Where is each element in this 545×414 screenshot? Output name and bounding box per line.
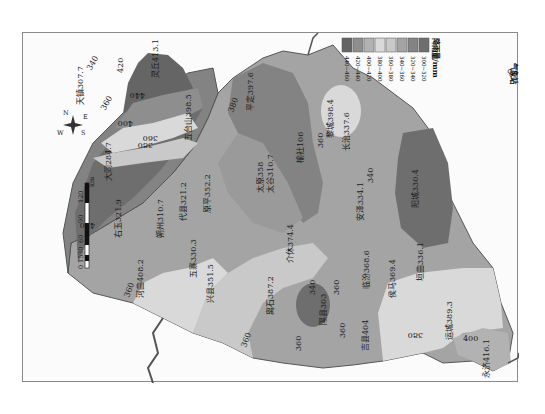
svg-text:降雨量/mm: 降雨量/mm	[431, 38, 441, 78]
svg-text:380~400: 380~400	[377, 56, 383, 82]
station-jiexiu: 介休374.4	[285, 224, 295, 263]
svg-text:30: 30	[77, 247, 85, 255]
station-daixian: 代县321.2	[178, 182, 188, 221]
svg-text:420: 420	[116, 58, 125, 73]
svg-text:320~340: 320~340	[410, 56, 416, 82]
station-hequ: 河曲408.2	[135, 259, 145, 298]
svg-text:360~380: 360~380	[388, 56, 394, 82]
legend: 降雨量/mm 300~320 320~340 340~360 360~380 3…	[342, 38, 441, 82]
svg-text:0: 0	[77, 265, 85, 269]
svg-text:km: km	[88, 177, 96, 187]
station-taiyuan: 太原358	[255, 162, 265, 193]
svg-text:S: S	[81, 129, 85, 137]
svg-text:340: 340	[85, 54, 100, 72]
station-yushe: 榆社106	[295, 132, 305, 163]
svg-text:N: N	[63, 109, 69, 117]
station-jixian: 吉县404	[361, 320, 370, 351]
station-taigu: 太谷310.7	[265, 154, 275, 193]
svg-text:340: 340	[366, 168, 375, 183]
precipitation-map: 降雨量/mm 300~320 320~340 340~360 360~380 3…	[23, 33, 519, 383]
station-wuzhai: 五寨330.3	[188, 239, 198, 278]
svg-text:360: 360	[338, 323, 347, 338]
station-xixian: 隰县303	[318, 294, 328, 325]
svg-text:360: 360	[99, 94, 114, 112]
svg-text:120: 120	[77, 191, 85, 203]
svg-text:E: E	[83, 113, 88, 121]
svg-text:400: 400	[463, 334, 478, 343]
svg-text:420~440: 420~440	[355, 56, 361, 82]
station-linfen: 临汾368.6	[361, 250, 371, 289]
station-houma: 侯马369.4	[388, 259, 397, 298]
station-yuanqu: 垣曲336.1	[415, 242, 425, 281]
station-yangcheng: 阳城330.4	[411, 169, 420, 208]
map-frame: 降雨量/mm 300~320 320~340 340~360 360~380 3…	[22, 32, 518, 382]
station-licheng: 黎城398.4	[325, 99, 335, 138]
station-lishi: 离石387.2	[265, 276, 275, 315]
svg-text:400: 400	[118, 119, 133, 128]
station-anze: 安泽334.1	[355, 182, 365, 221]
svg-text:380: 380	[408, 331, 423, 340]
svg-text:340~360: 340~360	[399, 56, 405, 82]
station-wutaishan: 五台山398.5	[183, 94, 193, 141]
station-yuanping: 原平352.2	[203, 174, 212, 213]
svg-text:440: 440	[130, 91, 145, 100]
svg-text:360: 360	[294, 336, 303, 351]
svg-text:440~460: 440~460	[344, 56, 350, 82]
svg-text:340: 340	[308, 280, 317, 295]
station-yongji: 永济416.1	[481, 339, 491, 378]
station-datong: 大同284.7	[103, 142, 113, 181]
station-xingxian: 兴县351.5	[206, 264, 215, 303]
station-tianzhen: 天镇307.7	[75, 66, 85, 105]
zone-yangcheng	[395, 128, 453, 248]
svg-text:400~420: 400~420	[366, 56, 372, 82]
svg-text:60: 60	[77, 235, 85, 243]
station-shuozhou: 朔州310.7	[155, 199, 165, 238]
station-lingqiu: 灵丘413.1	[151, 39, 160, 78]
river	[148, 318, 163, 383]
compass-icon: N E S W	[57, 109, 88, 137]
station-pingding: 平定397.6	[245, 72, 255, 111]
station-symbol-icon: ⚲	[507, 68, 513, 77]
svg-text:300~320: 300~320	[421, 56, 427, 82]
station-yuncheng: 运城389.3	[445, 301, 454, 340]
svg-text:360: 360	[316, 133, 325, 148]
svg-text:360: 360	[332, 280, 341, 295]
svg-text:420: 420	[80, 221, 95, 230]
station-changzhi: 长治337.6	[341, 112, 351, 151]
svg-text:W: W	[57, 129, 64, 137]
svg-text:360: 360	[143, 134, 158, 143]
station-youyu: 右玉321.9	[113, 199, 123, 238]
